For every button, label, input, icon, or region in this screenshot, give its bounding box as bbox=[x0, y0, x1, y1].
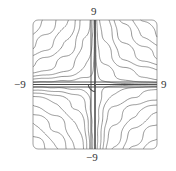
contour-plot bbox=[0, 0, 176, 171]
x-max-tick-label: 9 bbox=[161, 79, 167, 90]
x-min-tick-label: −9 bbox=[14, 79, 26, 90]
contour-lines bbox=[33, 20, 157, 149]
y-max-tick-label: 9 bbox=[91, 6, 97, 17]
y-min-tick-label: −9 bbox=[86, 152, 98, 163]
